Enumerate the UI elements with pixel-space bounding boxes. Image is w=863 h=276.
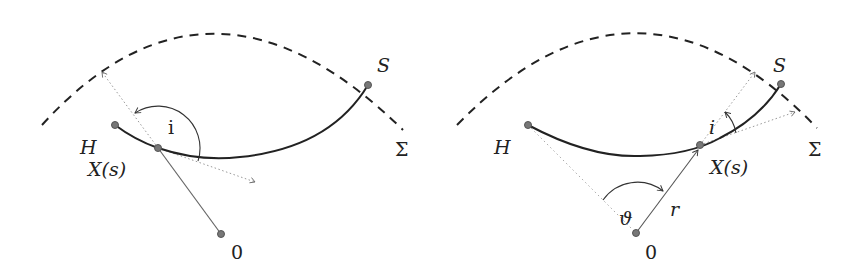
label-r: r <box>670 200 679 219</box>
point-H <box>525 122 532 129</box>
point-S <box>365 82 372 89</box>
right-panel <box>457 33 817 236</box>
point-X <box>155 145 162 152</box>
label-H: H <box>80 138 97 157</box>
trajectory-curve <box>115 85 368 158</box>
point-X <box>697 142 704 149</box>
point-S <box>778 81 785 88</box>
angle-theta-arc <box>603 182 663 200</box>
label-angle-i: i <box>709 118 715 137</box>
label-X-s: X(s) <box>88 160 126 179</box>
label-X-s: X(s) <box>710 158 748 177</box>
label-sigma: Σ <box>808 140 821 159</box>
label-origin: 0 <box>231 243 243 262</box>
label-S: S <box>773 56 786 75</box>
label-angle-i: i <box>168 118 174 137</box>
label-H: H <box>494 138 511 157</box>
label-sigma: Σ <box>395 140 408 159</box>
trajectory-curve <box>528 84 781 156</box>
sigma-boundary-dashed <box>42 34 403 130</box>
diagram-canvas <box>0 0 863 276</box>
label-theta: ϑ <box>619 209 633 228</box>
sigma-boundary-dashed <box>457 33 817 128</box>
point-origin <box>218 231 225 238</box>
radius-line-r <box>636 150 698 233</box>
point-origin <box>633 230 640 237</box>
radius-line <box>158 148 221 234</box>
label-S: S <box>377 56 390 75</box>
point-H <box>112 122 119 129</box>
label-origin: 0 <box>645 243 657 262</box>
